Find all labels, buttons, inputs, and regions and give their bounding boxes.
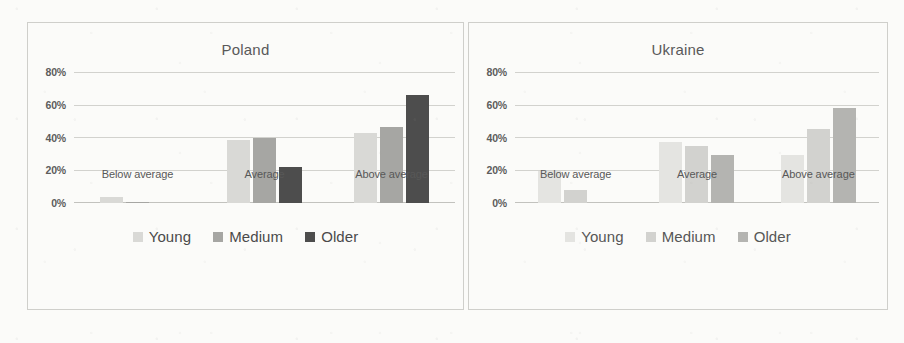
legend-label-older: Older bbox=[321, 228, 358, 245]
bar-group-above-average bbox=[328, 72, 455, 203]
legend-label-young: Young bbox=[149, 228, 192, 245]
plot-canvas-poland bbox=[74, 72, 455, 203]
chart-title-ukraine: Ukraine bbox=[469, 41, 887, 58]
bar-group-above-average bbox=[758, 72, 879, 203]
legend-swatch-icon-young bbox=[565, 232, 575, 242]
bar-groups-poland bbox=[74, 72, 455, 203]
bar-medium-above-average bbox=[380, 127, 403, 203]
legend-item-young: Young bbox=[133, 228, 192, 245]
chart-panel-poland: Poland 80% 60% 40% 20% 0% bbox=[27, 22, 464, 310]
x-label-above-average: Above average bbox=[328, 168, 455, 180]
bar-groups-ukraine bbox=[515, 72, 879, 203]
legend-label-medium: Medium bbox=[662, 228, 716, 245]
legend-swatch-icon-medium bbox=[646, 232, 656, 242]
x-label-below-average: Below average bbox=[74, 168, 201, 180]
legend-item-medium: Medium bbox=[646, 228, 716, 245]
x-label-average: Average bbox=[636, 168, 757, 180]
legend-swatch-icon-older bbox=[305, 232, 315, 242]
bar-group-average bbox=[636, 72, 757, 203]
legend-swatch-icon-medium bbox=[213, 232, 223, 242]
legend-item-medium: Medium bbox=[213, 228, 283, 245]
plot-area-poland: 80% 60% 40% 20% 0% bbox=[28, 72, 463, 203]
y-tick-60: 60% bbox=[487, 99, 507, 111]
legend-swatch-icon-young bbox=[133, 232, 143, 242]
bar-young-below-average bbox=[100, 197, 123, 203]
plot-canvas-ukraine bbox=[515, 72, 879, 203]
legend-ukraine: Young Medium Older bbox=[469, 228, 887, 245]
chart-panel-ukraine: Ukraine 80% 60% 40% 20% 0% bbox=[468, 22, 888, 310]
x-label-average: Average bbox=[201, 168, 328, 180]
x-label-above-average: Above average bbox=[758, 168, 879, 180]
y-tick-80: 80% bbox=[46, 66, 66, 78]
legend-item-older: Older bbox=[738, 228, 791, 245]
y-tick-40: 40% bbox=[487, 132, 507, 144]
legend-label-medium: Medium bbox=[229, 228, 283, 245]
y-axis-poland: 80% 60% 40% 20% 0% bbox=[28, 72, 72, 203]
scanned-figure-sheet: Poland 80% 60% 40% 20% 0% bbox=[0, 0, 904, 343]
y-tick-20: 20% bbox=[487, 164, 507, 176]
y-axis-ukraine: 80% 60% 40% 20% 0% bbox=[469, 72, 513, 203]
legend-item-young: Young bbox=[565, 228, 624, 245]
bar-medium-below-average bbox=[126, 202, 149, 203]
legend-poland: Young Medium Older bbox=[28, 228, 463, 245]
y-tick-0: 0% bbox=[51, 197, 66, 209]
y-tick-80: 80% bbox=[487, 66, 507, 78]
bar-older-above-average bbox=[833, 108, 856, 203]
y-tick-40: 40% bbox=[46, 132, 66, 144]
x-axis-labels-poland: Below average Average Above average bbox=[74, 168, 455, 180]
legend-item-older: Older bbox=[305, 228, 358, 245]
legend-swatch-icon-older bbox=[738, 232, 748, 242]
bar-older-above-average bbox=[406, 95, 429, 203]
chart-title-poland: Poland bbox=[28, 41, 463, 58]
bar-medium-above-average bbox=[807, 129, 830, 203]
bar-group-below-average bbox=[515, 72, 636, 203]
y-tick-20: 20% bbox=[46, 164, 66, 176]
bar-medium-below-average bbox=[564, 190, 587, 203]
y-tick-60: 60% bbox=[46, 99, 66, 111]
x-axis-labels-ukraine: Below average Average Above average bbox=[515, 168, 879, 180]
plot-area-ukraine: 80% 60% 40% 20% 0% bbox=[469, 72, 887, 203]
legend-label-older: Older bbox=[754, 228, 791, 245]
y-tick-0: 0% bbox=[492, 197, 507, 209]
bar-group-below-average bbox=[74, 72, 201, 203]
legend-label-young: Young bbox=[581, 228, 624, 245]
bar-group-average bbox=[201, 72, 328, 203]
x-label-below-average: Below average bbox=[515, 168, 636, 180]
